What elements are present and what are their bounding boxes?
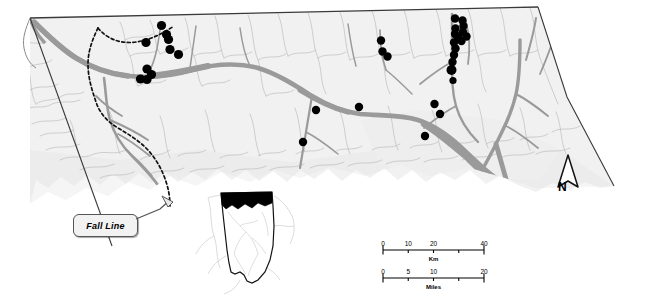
occurrence-point (421, 132, 429, 140)
scale-tick-label: 0 (381, 268, 385, 275)
map-canvas: 0102040Km051020Miles (0, 0, 647, 301)
occurrence-point (447, 65, 457, 75)
occurrence-point (355, 103, 363, 111)
occurrence-point (383, 52, 391, 60)
km-scale-bar: 0102040Km (381, 240, 488, 262)
fall-line-callout: Fall Line (73, 214, 138, 237)
occurrence-point (157, 21, 166, 30)
occurrence-point (299, 138, 307, 146)
scale-tick-label: 20 (430, 240, 438, 247)
occurrence-point (164, 35, 173, 44)
alabama-locator-inset (196, 192, 294, 294)
occurrence-point (430, 100, 438, 108)
occurrence-point (377, 36, 385, 44)
scale-unit-label: Miles (426, 284, 442, 290)
occurrence-point (141, 38, 150, 47)
scale-tick-label: 20 (480, 268, 488, 275)
occurrence-point (174, 50, 183, 59)
occurrence-point (448, 58, 456, 66)
scale-tick-label: 0 (381, 240, 385, 247)
north-arrow-label: N (558, 180, 567, 194)
occurrence-point (457, 37, 465, 45)
occurrence-point (165, 45, 174, 54)
occurrence-point (450, 51, 458, 59)
occurrence-point (436, 110, 444, 118)
scale-tick-label: 10 (430, 268, 438, 275)
scale-tick-label: 5 (406, 268, 410, 275)
miles-scale-bar: 051020Miles (381, 268, 488, 290)
scale-tick-label: 10 (405, 240, 413, 247)
distribution-map-figure: 0102040Km051020Miles Fall Line N (0, 0, 647, 301)
occurrence-point (451, 14, 459, 22)
fall-line-label: Fall Line (86, 221, 124, 231)
scale-unit-label: Km (429, 256, 439, 262)
occurrence-point (449, 77, 456, 84)
scale-tick-label: 40 (480, 240, 488, 247)
occurrence-point (142, 75, 151, 84)
scale-bars-layer: 0102040Km051020Miles (381, 240, 488, 290)
occurrence-point (312, 106, 320, 114)
